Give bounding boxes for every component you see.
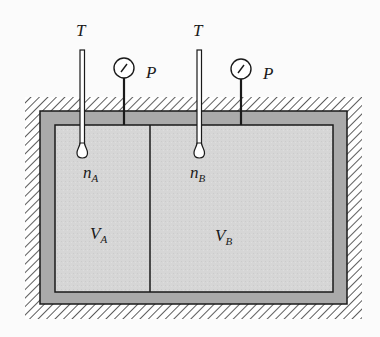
pressure-label-a: P — [145, 63, 156, 82]
temperature-label-b: T — [193, 21, 204, 40]
two-compartment-vessel-diagram: T P nA VA T P nB VB — [0, 0, 380, 337]
pressure-label-b: P — [262, 64, 273, 83]
temperature-label-a: T — [76, 21, 87, 40]
